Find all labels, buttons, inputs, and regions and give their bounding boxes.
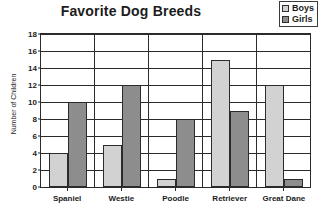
x-axis-label: Poodle (148, 194, 202, 203)
bar-group-inner (257, 34, 310, 187)
chart-title: Favorite Dog Breeds (0, 3, 262, 19)
bar-group (41, 34, 95, 187)
x-axis-label: Great Dane (257, 194, 311, 203)
legend-item-girls[interactable]: Girls (282, 15, 314, 24)
x-tick-mark (175, 187, 176, 191)
bar-girls-poodle[interactable] (176, 119, 195, 187)
bar-boys-spaniel[interactable] (49, 153, 68, 187)
legend-swatch-boys-icon (282, 5, 289, 12)
y-tick-label: 4 (33, 149, 37, 158)
x-tick-mark (67, 187, 68, 191)
y-tick-label: 0 (33, 183, 37, 192)
bar-boys-great-dane[interactable] (265, 85, 284, 187)
bar-boys-westie[interactable] (103, 145, 122, 188)
legend-swatch-girls-icon (282, 16, 289, 23)
x-axis-labels: SpanielWestiePoodleRetrieverGreat Dane (40, 194, 311, 203)
y-tick-label: 14 (28, 64, 37, 73)
x-tick-mark (229, 187, 230, 191)
bar-boys-poodle[interactable] (157, 179, 176, 188)
bar-group (149, 34, 203, 187)
x-axis-label: Spaniel (40, 194, 94, 203)
bar-group-inner (149, 34, 202, 187)
x-axis-label: Retriever (203, 194, 257, 203)
bar-girls-spaniel[interactable] (68, 102, 87, 187)
x-tick-mark (283, 187, 284, 191)
bar-boys-retriever[interactable] (211, 60, 230, 188)
y-tick-label: 2 (33, 166, 37, 175)
bar-girls-great-dane[interactable] (284, 179, 303, 188)
bar-girls-retriever[interactable] (230, 111, 249, 188)
y-tick-label: 8 (33, 115, 37, 124)
bar-group (95, 34, 149, 187)
y-axis-title: Number of Children (10, 56, 17, 152)
y-tick-label: 18 (28, 30, 37, 39)
y-tick-label: 12 (28, 81, 37, 90)
y-tick-label: 6 (33, 132, 37, 141)
bar-group-inner (41, 34, 94, 187)
legend-label-boys: Boys (292, 4, 314, 13)
y-tick-label: 16 (28, 47, 37, 56)
bar-group-inner (95, 34, 148, 187)
bar-girls-westie[interactable] (122, 85, 141, 187)
bar-groups (41, 34, 310, 187)
x-tick-mark (121, 187, 122, 191)
legend-label-girls: Girls (292, 15, 313, 24)
bar-group-inner (203, 34, 256, 187)
legend-item-boys[interactable]: Boys (282, 4, 314, 13)
plot-area: 024681012141618 (40, 33, 311, 188)
bar-group (257, 34, 310, 187)
y-tick-label: 10 (28, 98, 37, 107)
x-axis-label: Westie (94, 194, 148, 203)
bar-group (203, 34, 257, 187)
chart-legend: Boys Girls (279, 1, 318, 27)
